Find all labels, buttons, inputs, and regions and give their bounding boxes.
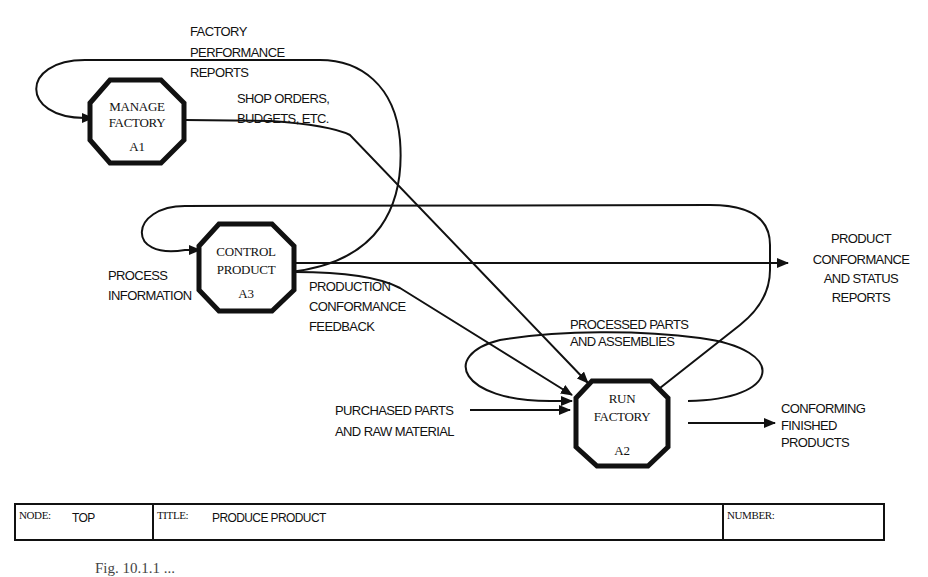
activity-box-a1[interactable]: MANAGE FACTORY A1 xyxy=(90,80,184,163)
box-a1-line-2: FACTORY xyxy=(109,115,167,130)
svg-text:CONFORMING: CONFORMING xyxy=(781,401,866,416)
svg-text:PRODUCTION: PRODUCTION xyxy=(309,279,391,294)
label-product-conformance-reports: PRODUCT CONFORMANCE AND STATUS REPORTS xyxy=(813,231,911,305)
box-a2-line-1: RUN xyxy=(609,391,636,406)
label-factory-performance-reports: FACTORY PERFORMANCE REPORTS xyxy=(190,24,285,80)
box-a1-line-1: MANAGE xyxy=(109,99,165,114)
svg-text:FEEDBACK: FEEDBACK xyxy=(309,319,375,334)
svg-text:AND STATUS: AND STATUS xyxy=(824,271,899,286)
svg-text:CONFORMANCE: CONFORMANCE xyxy=(309,299,407,314)
node-key: NODE: xyxy=(19,509,51,521)
title-cell: TITLE: PRODUCE PRODUCT xyxy=(154,505,724,539)
box-a3-line-1: CONTROL xyxy=(216,244,276,259)
title-key: TITLE: xyxy=(157,509,188,521)
label-conforming-products: CONFORMING FINISHED PRODUCTS xyxy=(781,401,866,450)
activity-box-a3[interactable]: CONTROL PRODUCT A3 xyxy=(199,224,294,311)
svg-text:PERFORMANCE: PERFORMANCE xyxy=(190,45,285,60)
node-value: TOP xyxy=(72,511,95,525)
label-production-conformance-feedback: PRODUCTION CONFORMANCE FEEDBACK xyxy=(309,279,407,334)
svg-text:FINISHED: FINISHED xyxy=(781,418,837,433)
svg-text:AND RAW MATERIAL: AND RAW MATERIAL xyxy=(335,424,454,439)
label-shop-orders: SHOP ORDERS, BUDGETS, ETC. xyxy=(237,91,329,126)
box-a2-line-2: FACTORY xyxy=(594,409,652,424)
box-a1-code: A1 xyxy=(129,139,144,154)
svg-text:PRODUCT: PRODUCT xyxy=(831,231,892,246)
svg-text:REPORTS: REPORTS xyxy=(832,290,891,305)
svg-text:AND ASSEMBLIES: AND ASSEMBLIES xyxy=(570,334,675,349)
svg-text:CONFORMANCE: CONFORMANCE xyxy=(813,252,911,267)
label-process-information: PROCESS INFORMATION xyxy=(108,268,192,303)
idef0-diagram: MANAGE FACTORY A1 CONTROL PRODUCT A3 RUN… xyxy=(0,0,928,500)
svg-text:REPORTS: REPORTS xyxy=(190,65,249,80)
svg-text:PROCESSED PARTS: PROCESSED PARTS xyxy=(570,317,689,332)
label-purchased-parts: PURCHASED PARTS AND RAW MATERIAL xyxy=(335,403,454,439)
number-key: NUMBER: xyxy=(727,509,774,521)
box-a3-line-2: PRODUCT xyxy=(217,262,276,277)
svg-text:PURCHASED PARTS: PURCHASED PARTS xyxy=(335,403,454,418)
figure-caption: Fig. 10.1.1 ... xyxy=(95,560,175,577)
node-cell: NODE: TOP xyxy=(16,505,154,539)
box-a3-code: A3 xyxy=(238,286,253,301)
activity-box-a2[interactable]: RUN FACTORY A2 xyxy=(576,381,668,466)
svg-text:PRODUCTS: PRODUCTS xyxy=(781,435,850,450)
svg-text:INFORMATION: INFORMATION xyxy=(108,288,192,303)
title-block: NODE: TOP TITLE: PRODUCE PRODUCT NUMBER: xyxy=(14,503,885,541)
number-cell: NUMBER: xyxy=(724,505,883,539)
title-value: PRODUCE PRODUCT xyxy=(212,511,326,525)
svg-text:PROCESS: PROCESS xyxy=(108,268,168,283)
svg-text:SHOP ORDERS,: SHOP ORDERS, xyxy=(237,91,329,106)
svg-text:BUDGETS, ETC.: BUDGETS, ETC. xyxy=(237,111,329,126)
box-a2-code: A2 xyxy=(614,443,629,458)
svg-text:FACTORY: FACTORY xyxy=(190,24,248,39)
